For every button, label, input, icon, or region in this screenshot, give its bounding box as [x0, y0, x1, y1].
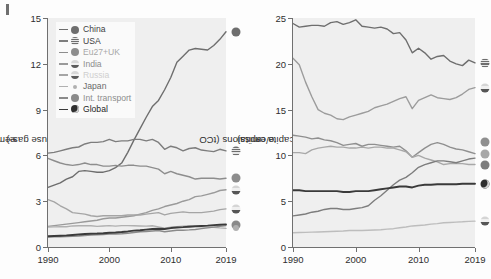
x-axis-line — [47, 247, 226, 248]
x-tick — [419, 248, 420, 252]
x-tick — [48, 248, 49, 252]
legend-item-label: Int. transport — [83, 94, 131, 103]
endpoint-marker-usa — [232, 146, 241, 155]
x-axis-line — [292, 247, 475, 248]
x-tick-label: 2000 — [345, 254, 366, 265]
series-line — [293, 221, 475, 233]
y-tick-label: 0 — [16, 242, 41, 253]
legend-item[interactable]: China — [59, 24, 131, 35]
legend-item[interactable]: Japan — [59, 81, 131, 92]
usa-flag-marker-icon — [71, 37, 79, 45]
y-tick-label: 5 — [261, 196, 286, 207]
x-tick — [171, 248, 172, 252]
series-line — [48, 190, 226, 227]
series-line — [293, 20, 475, 66]
legend-line-swatch — [59, 86, 68, 88]
y-tick-label: 3 — [16, 196, 41, 207]
legend-item-label: USA — [83, 37, 101, 46]
y-tick — [288, 110, 292, 111]
series-line — [293, 184, 475, 192]
x-tick — [109, 248, 110, 252]
y-tick — [288, 155, 292, 156]
legend-line-swatch — [59, 109, 68, 111]
y-axis-label-right: Per capita emissions (tCO2e/capita) — [247, 0, 265, 279]
legend-item[interactable]: India — [59, 58, 131, 69]
y-axis-label-left: Greenhouse gas emissions (GtCO2e) — [2, 0, 20, 279]
japan-flag-marker-icon — [73, 85, 77, 89]
x-tick-label: 2000 — [99, 254, 120, 265]
endpoint-marker-india — [481, 217, 490, 226]
y-tick — [288, 18, 292, 19]
endpoint-marker-japan — [233, 225, 239, 231]
legend-item[interactable]: Global — [59, 104, 131, 115]
y-tick — [43, 201, 47, 202]
y-tick — [43, 64, 47, 65]
x-tick-label: 2019 — [215, 254, 236, 265]
legend-item-label: China — [83, 25, 105, 34]
y-tick — [43, 18, 47, 19]
legend-item-label: Global — [83, 105, 108, 114]
series-line — [293, 135, 475, 157]
legend-line-swatch — [59, 52, 68, 54]
legend-line-swatch — [59, 63, 68, 65]
y-axis-line — [292, 18, 293, 247]
legend-item-label: India — [83, 60, 102, 69]
transport-marker-icon — [71, 94, 79, 102]
x-tick — [356, 248, 357, 252]
series-line — [48, 200, 226, 217]
endpoint-marker-china — [481, 160, 490, 169]
globe-marker-icon — [71, 105, 79, 113]
x-tick — [226, 248, 227, 252]
y-tick-label: 6 — [16, 150, 41, 161]
legend-item-label: Russia — [83, 71, 109, 80]
x-tick-label: 2010 — [408, 254, 429, 265]
legend-item[interactable]: Int. transport — [59, 92, 131, 103]
y-tick — [288, 64, 292, 65]
endpoint-marker-eu27-uk — [232, 174, 241, 183]
y-tick — [43, 247, 47, 248]
x-tick — [293, 248, 294, 252]
x-tick-label: 1990 — [37, 254, 58, 265]
series-line — [293, 158, 475, 216]
endpoint-marker-india — [232, 185, 241, 194]
legend-line-swatch — [59, 29, 68, 31]
y-tick — [43, 155, 47, 156]
endpoint-marker-china — [232, 27, 241, 36]
legend-line-swatch — [59, 97, 68, 99]
endpoint-marker-usa — [481, 58, 490, 67]
endpoint-marker-russia — [232, 204, 241, 213]
y-tick — [288, 201, 292, 202]
eu-flag-marker-icon — [71, 48, 79, 56]
x-tick-label: 2019 — [464, 254, 485, 265]
line-series-right — [293, 18, 475, 247]
india-flag-marker-icon — [71, 60, 79, 68]
legend-item[interactable]: Eu27+UK — [59, 47, 131, 58]
legend-line-swatch — [59, 40, 68, 42]
legend-item-label: Japan — [83, 82, 106, 91]
y-tick-label: 10 — [261, 150, 286, 161]
russia-flag-marker-icon — [71, 71, 79, 79]
legend-line-swatch — [59, 74, 68, 76]
legend-item[interactable]: Russia — [59, 70, 131, 81]
y-tick — [43, 110, 47, 111]
plot-area-right — [293, 18, 475, 247]
y-axis-label-left-tail: e) — [7, 134, 16, 145]
china-flag-marker-icon — [71, 26, 79, 34]
legend: ChinaUSAEu27+UKIndiaRussiaJapanInt. tran… — [56, 22, 135, 118]
endpoint-marker-eu27-uk — [481, 149, 490, 158]
legend-item-label: Eu27+UK — [83, 48, 120, 57]
y-tick-label: 12 — [16, 58, 41, 69]
endpoint-marker-global — [481, 179, 490, 188]
y-tick-label: 9 — [16, 104, 41, 115]
y-axis-line — [47, 18, 48, 247]
x-tick-label: 1990 — [282, 254, 303, 265]
series-line — [48, 158, 226, 179]
y-tick-label: 15 — [261, 104, 286, 115]
figure-root: Greenhouse gas emissions (GtCO2e) 036912… — [0, 0, 491, 279]
x-tick — [475, 248, 476, 252]
legend-item[interactable]: USA — [59, 35, 131, 46]
chart-panel-right: Per capita emissions (tCO2e/capita) 0510… — [245, 0, 491, 279]
y-tick-label: 0 — [261, 242, 286, 253]
y-tick-label: 20 — [261, 58, 286, 69]
endpoint-marker-japan — [481, 137, 490, 146]
